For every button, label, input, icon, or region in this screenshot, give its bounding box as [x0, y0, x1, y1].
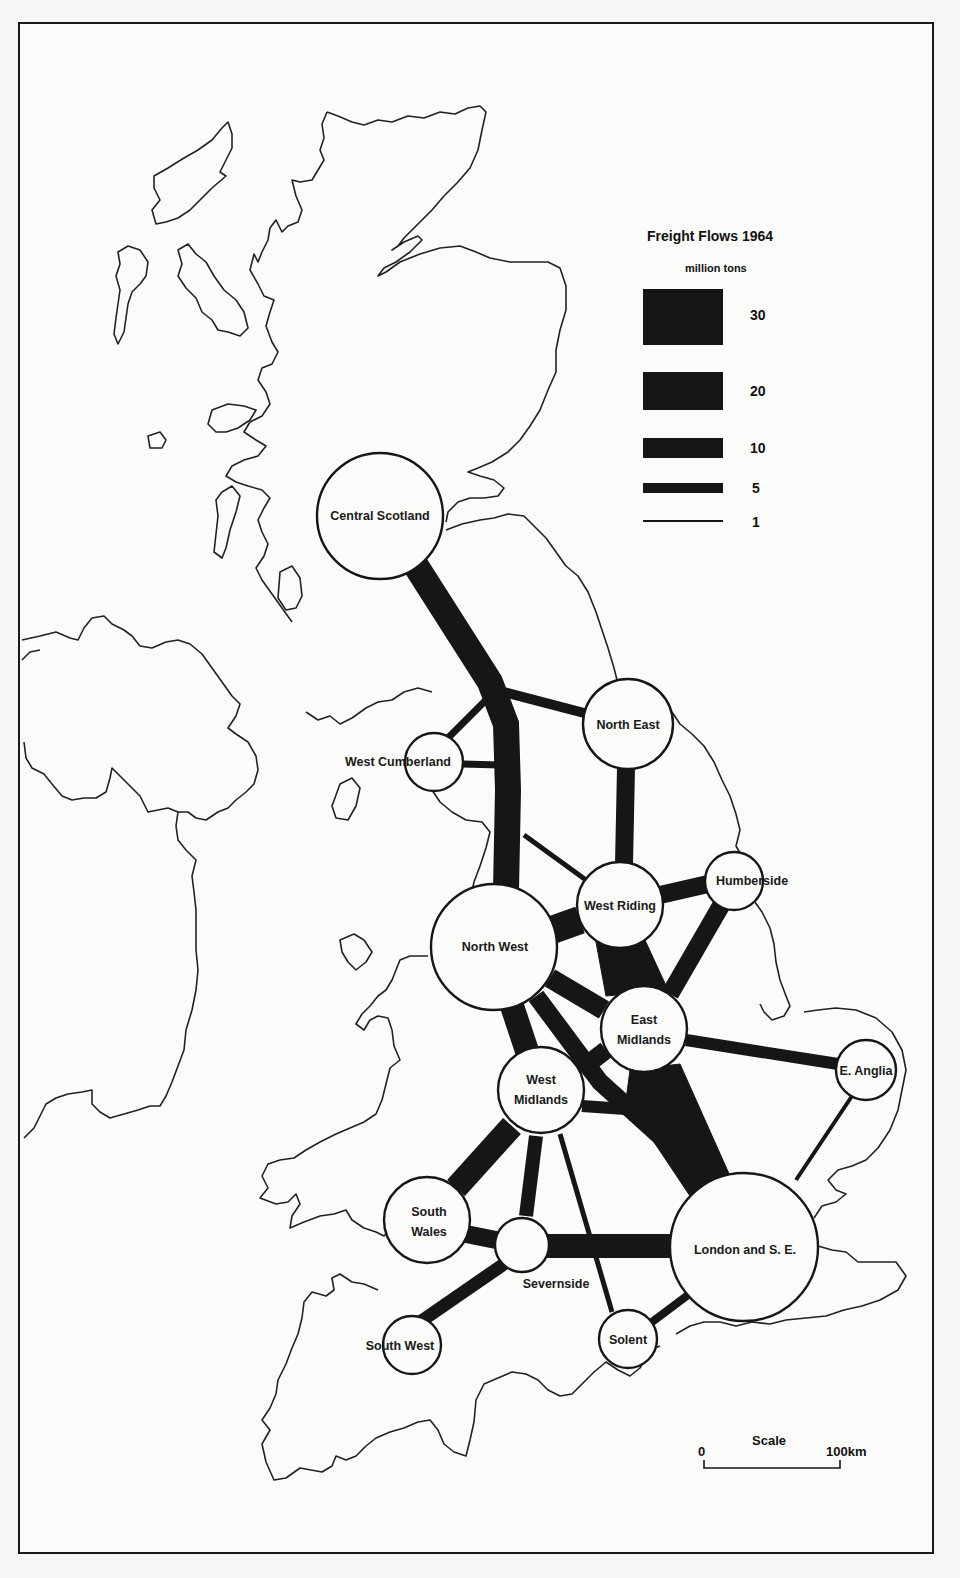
flow-north-east-west-riding [624, 768, 626, 864]
node-north-west[interactable]: North West [431, 884, 557, 1010]
coast-anglesey [340, 934, 372, 970]
label-severnside: Severnside [523, 1277, 590, 1291]
legend-label-10: 10 [750, 440, 766, 456]
flow-solent-london [652, 1292, 692, 1322]
label-humberside: Humberside [716, 874, 788, 888]
legend-swatch-30 [643, 289, 723, 345]
flow-west-cumberland-trunk-lower [462, 764, 500, 765]
flow-west-midlands-severnside [526, 1136, 536, 1216]
coast-south [262, 1274, 660, 1480]
flow-south-wales-severnside [466, 1234, 496, 1240]
node-south-west[interactable]: South West [366, 1316, 441, 1374]
coast-islay [148, 432, 166, 448]
coast-skye [178, 244, 248, 336]
legend-swatch-5 [643, 483, 723, 493]
coast-east-yorkshire [672, 712, 752, 874]
flow-north-west-west-riding [552, 920, 580, 930]
coast-northwest [306, 688, 432, 724]
coast-uist [114, 246, 148, 344]
label-e-anglia: E. Anglia [839, 1064, 893, 1078]
node-west-cumberland[interactable]: West Cumberland [345, 733, 463, 791]
flow-west-riding-humberside [660, 884, 708, 895]
node-humberside[interactable]: Humberside [705, 852, 788, 910]
coast-lincs-wash [752, 898, 790, 1020]
flow-e-anglia-london [796, 1096, 852, 1180]
label-north-east: North East [596, 718, 660, 732]
legend-swatch-10 [643, 438, 723, 458]
label-solent: Solent [609, 1333, 648, 1347]
coast-lewis [152, 122, 232, 224]
label-london-se: London and S. E. [694, 1243, 796, 1257]
flow-north-west-west-midlands [512, 1006, 528, 1054]
flow-humberside-east-midlands [670, 904, 722, 994]
label-central-scotland: Central Scotland [330, 509, 429, 523]
label-west-cumberland: West Cumberland [345, 755, 451, 769]
legend-label-1: 1 [752, 514, 760, 530]
flow-east-midlands-e-anglia [686, 1040, 838, 1064]
node-south-wales[interactable]: South Wales [384, 1177, 470, 1263]
label-west-riding: West Riding [584, 899, 656, 913]
scale-start-label: 0 [698, 1444, 705, 1459]
coast-east-anglia [804, 1008, 906, 1218]
node-london-se[interactable]: London and S. E. [670, 1173, 818, 1321]
node-central-scotland[interactable]: Central Scotland [317, 453, 443, 579]
coast-kintyre [214, 486, 240, 558]
coast-arran-jura [278, 566, 302, 610]
flow-severnside-south-west [420, 1264, 504, 1322]
legend-label-20: 20 [750, 383, 766, 399]
flow-west-midlands-london [582, 1106, 640, 1110]
scale-bar: Scale 0 100km [698, 1433, 866, 1468]
scale-end-label: 100km [826, 1444, 866, 1459]
node-west-midlands[interactable]: West Midlands [498, 1047, 584, 1133]
legend-unit: million tons [685, 262, 747, 274]
node-east-midlands[interactable]: East Midlands [601, 986, 687, 1072]
legend: Freight Flows 1964 million tons 30 20 10… [643, 228, 773, 530]
legend-title: Freight Flows 1964 [647, 228, 773, 244]
coast-ireland-east [24, 812, 198, 1138]
freight-flow-map: Central Scotland North East West Cumberl… [0, 0, 960, 1578]
node-north-east[interactable]: North East [583, 679, 673, 769]
label-south-wales-line2: Wales [411, 1225, 447, 1239]
coast-mull [208, 404, 256, 432]
legend-swatch-1 [643, 520, 723, 522]
label-east-midlands-line2: Midlands [617, 1033, 671, 1047]
scale-title: Scale [752, 1433, 786, 1448]
legend-swatch-20 [643, 372, 723, 410]
label-south-wales-line1: South [411, 1205, 446, 1219]
legend-label-30: 30 [750, 307, 766, 323]
coast-scotland-west [226, 112, 327, 622]
flow-west-midlands-south-wales [456, 1126, 512, 1188]
coast-isle-of-man [332, 778, 360, 820]
node-west-riding[interactable]: West Riding [577, 862, 663, 948]
label-east-midlands-line1: East [631, 1013, 658, 1027]
coast-northern-ireland [22, 616, 258, 820]
legend-label-5: 5 [752, 480, 760, 496]
scale-line [704, 1460, 840, 1468]
label-south-west: South West [366, 1339, 435, 1353]
label-west-midlands-line2: Midlands [514, 1093, 568, 1107]
flow-north-west-east-midlands [550, 978, 604, 1010]
node-e-anglia[interactable]: E. Anglia [836, 1040, 896, 1100]
coast-ireland-northwest [22, 650, 40, 660]
flow-west-cumberland-trunk-upper [448, 700, 486, 738]
flow-trunk-west-riding [524, 835, 586, 880]
label-west-midlands-line1: West [526, 1073, 556, 1087]
label-north-west: North West [462, 940, 529, 954]
node-solent[interactable]: Solent [599, 1310, 657, 1368]
